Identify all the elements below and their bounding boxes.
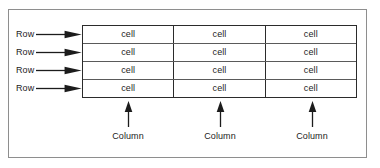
table-anatomy-diagram: Row Row Row Row bbox=[0, 0, 380, 168]
table-cell: cell bbox=[266, 26, 356, 43]
table-row: cell cell cell bbox=[83, 62, 356, 80]
arrow-up-icon bbox=[124, 101, 133, 127]
table-cell: cell bbox=[266, 62, 356, 79]
arrow-up-icon bbox=[308, 101, 317, 127]
row-label-text: Row bbox=[16, 84, 34, 93]
row-label-text: Row bbox=[16, 66, 34, 75]
column-label-text: Column bbox=[296, 132, 328, 141]
column-label-callout: Column bbox=[277, 101, 347, 141]
table-cell: cell bbox=[174, 26, 265, 43]
table-cell: cell bbox=[266, 80, 356, 97]
table-row: cell cell cell bbox=[83, 44, 356, 62]
row-label-group: Row Row Row Row bbox=[16, 25, 82, 98]
column-label-callout: Column bbox=[185, 101, 255, 141]
table-row: cell cell cell bbox=[83, 26, 356, 44]
row-label-callout: Row bbox=[16, 25, 82, 43]
cell-table: cell cell cell cell cell cell cell cell … bbox=[82, 25, 357, 98]
table-cell: cell bbox=[174, 44, 265, 61]
row-label-text: Row bbox=[16, 30, 34, 39]
table-row: cell cell cell bbox=[83, 80, 356, 97]
row-label-callout: Row bbox=[16, 43, 82, 61]
table-cell: cell bbox=[266, 44, 356, 61]
table-cell: cell bbox=[83, 44, 174, 61]
table-cell: cell bbox=[83, 26, 174, 43]
column-label-callout: Column bbox=[93, 101, 163, 141]
table-cell: cell bbox=[83, 62, 174, 79]
arrow-right-icon bbox=[36, 30, 82, 39]
table-cell: cell bbox=[174, 80, 265, 97]
arrow-right-icon bbox=[36, 84, 82, 93]
table-cell: cell bbox=[83, 80, 174, 97]
row-label-text: Row bbox=[16, 48, 34, 57]
row-label-callout: Row bbox=[16, 62, 82, 80]
row-label-callout: Row bbox=[16, 80, 82, 98]
column-label-text: Column bbox=[112, 132, 144, 141]
arrow-right-icon bbox=[36, 48, 82, 57]
arrow-right-icon bbox=[36, 66, 82, 75]
column-label-text: Column bbox=[204, 132, 236, 141]
table-cell: cell bbox=[174, 62, 265, 79]
arrow-up-icon bbox=[216, 101, 225, 127]
